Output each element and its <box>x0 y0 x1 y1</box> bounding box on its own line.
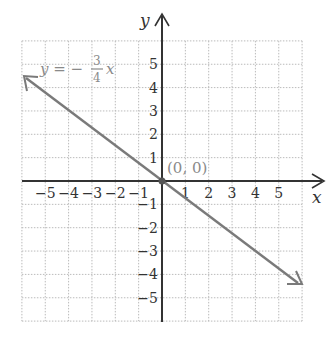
x-tick-label: −2 <box>105 185 126 201</box>
origin-point <box>159 178 166 185</box>
y-tick-label: 2 <box>149 126 158 142</box>
x-tick-label: −3 <box>82 185 103 201</box>
x-axis-label: x <box>312 187 322 207</box>
coordinate-plane: x y −5−4−3−2−112345 54321−1−2−3−4−5 (0, … <box>0 0 331 338</box>
y-tick-label: 1 <box>149 150 158 166</box>
y-tick-label: 5 <box>149 56 158 72</box>
equation-lhs: y = − <box>39 60 83 78</box>
x-tick-label: 2 <box>204 185 213 201</box>
x-tick-label: 3 <box>228 185 237 201</box>
y-tick-label: −1 <box>137 196 158 212</box>
x-tick-labels: −5−4−3−2−112345 <box>35 185 283 201</box>
x-tick-label: 5 <box>274 185 283 201</box>
equation-denominator: 4 <box>93 71 101 85</box>
y-tick-label: −4 <box>137 266 158 282</box>
y-tick-label: −5 <box>137 290 158 306</box>
y-tick-label: −3 <box>137 243 158 259</box>
y-tick-label: 3 <box>149 103 158 119</box>
y-tick-label: −2 <box>137 220 158 236</box>
equation-var: x <box>106 60 115 78</box>
x-tick-label: −4 <box>58 185 79 201</box>
origin-label: (0, 0) <box>167 159 207 177</box>
equation-numerator: 3 <box>93 54 101 68</box>
y-tick-label: 4 <box>149 80 158 96</box>
x-tick-label: 4 <box>251 185 260 201</box>
y-axis-label: y <box>139 10 150 30</box>
x-tick-label: −5 <box>35 185 56 201</box>
